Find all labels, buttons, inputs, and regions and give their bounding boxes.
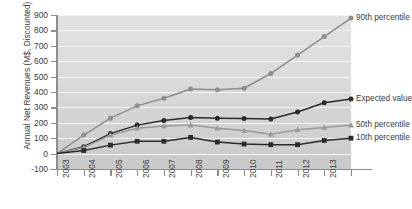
data-point — [268, 142, 273, 147]
data-point — [322, 100, 327, 105]
data-point — [268, 71, 273, 76]
data-point — [108, 116, 113, 121]
data-point — [215, 116, 220, 121]
data-point — [242, 142, 247, 147]
data-point — [81, 148, 86, 153]
data-point — [188, 115, 193, 120]
data-point — [295, 110, 300, 115]
data-point — [215, 87, 220, 92]
data-point — [215, 140, 220, 145]
data-point — [349, 96, 354, 101]
data-point — [188, 86, 193, 91]
data-point — [295, 142, 300, 147]
data-point — [135, 139, 140, 144]
data-point — [322, 34, 327, 39]
data-point — [108, 143, 113, 148]
legend-item-expected-value: Expected value — [356, 94, 412, 103]
data-point — [162, 139, 167, 144]
data-point — [242, 116, 247, 121]
data-point — [349, 16, 354, 21]
legend-item-10th-percentile: 10th percentile — [356, 133, 410, 142]
data-point — [268, 116, 273, 121]
data-point — [188, 135, 193, 140]
data-point — [161, 118, 166, 123]
data-point — [242, 86, 247, 91]
data-point — [322, 138, 327, 143]
data-point — [295, 53, 300, 58]
legend-item-90th-percentile: 90th percentile — [356, 13, 410, 22]
series-expected-value — [57, 96, 354, 153]
data-point — [349, 136, 354, 141]
legend-item-50th-percentile: 50th percentile — [356, 120, 410, 129]
series-line — [57, 18, 351, 154]
data-point — [161, 96, 166, 101]
data-point — [81, 133, 86, 138]
data-point — [135, 103, 140, 108]
series-90th-percentile — [57, 16, 354, 154]
